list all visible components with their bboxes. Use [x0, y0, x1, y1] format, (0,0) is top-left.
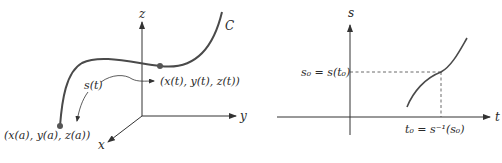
- start-point-label: (x(a), y(a), z(a)): [4, 129, 90, 142]
- diagram-canvas: z y x C s(t) (x(t), y(t), z(t)) (x(a), y…: [0, 0, 502, 163]
- z-axis-label: z: [138, 7, 146, 21]
- x-axis-label: x: [98, 138, 105, 152]
- t-axis-label: t: [495, 110, 500, 124]
- t0-label: t₀ = s⁻¹(s₀): [405, 123, 465, 136]
- y-axis-label: y: [239, 109, 247, 123]
- right-figure-arc-length-graph: s t s₀ = s(t₀) t₀ = s⁻¹(s₀): [277, 6, 500, 136]
- curve-label: C: [225, 19, 234, 33]
- left-figure-3d-curve: z y x C s(t) (x(t), y(t), z(t)) (x(a), y…: [4, 7, 247, 152]
- moving-point-label: (x(t), y(t), z(t)): [160, 75, 240, 88]
- s-axis-label: s: [348, 6, 354, 20]
- arc-arrow-back: [77, 92, 88, 121]
- s0-label: s₀ = s(t₀): [301, 66, 350, 79]
- curve-c: [60, 12, 222, 126]
- moving-point: [157, 63, 163, 69]
- x-axis: [108, 116, 142, 142]
- s-of-t-curve: [407, 38, 467, 107]
- arc-arrow-forward: [101, 76, 154, 82]
- arc-length-label: s(t): [84, 79, 103, 92]
